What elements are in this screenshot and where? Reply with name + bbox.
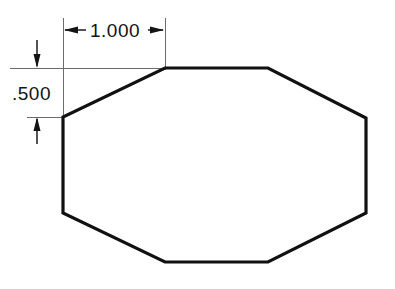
octagon-outline bbox=[63, 68, 366, 262]
vertical-dimension-label: .500 bbox=[12, 83, 51, 104]
vertical-dimension-arrow-lower-icon bbox=[34, 117, 41, 131]
technical-drawing-canvas: 1.000 .500 bbox=[0, 0, 395, 289]
vertical-dimension-group: .500 bbox=[12, 40, 51, 144]
horizontal-dimension-group: 1.000 bbox=[64, 20, 164, 41]
horizontal-dimension-arrow-right-icon bbox=[150, 27, 164, 34]
horizontal-dimension-arrow-left-icon bbox=[64, 27, 78, 34]
drawing-svg: 1.000 .500 bbox=[0, 0, 395, 289]
vertical-dimension-arrow-upper-icon bbox=[34, 54, 41, 68]
horizontal-dimension-label: 1.000 bbox=[90, 20, 140, 41]
